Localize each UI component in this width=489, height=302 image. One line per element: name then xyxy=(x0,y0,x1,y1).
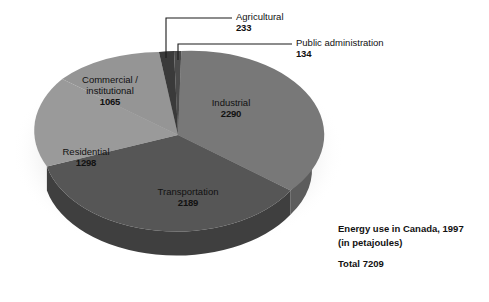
chart-canvas: Industrial 2290 Transportation 2189 Resi… xyxy=(0,0,489,302)
caption-title: Energy use in Canada, 1997 xyxy=(338,222,464,236)
slice-label-public-administration: Public administration 134 xyxy=(296,37,384,59)
slice-label-commercial-institutional: Commercial / institutional 1065 xyxy=(70,74,150,108)
slice-label-residential-value: 1298 xyxy=(50,157,122,168)
slice-label-transportation: Transportation 2189 xyxy=(144,186,232,208)
slice-label-residential: Residential 1298 xyxy=(50,146,122,168)
chart-caption: Energy use in Canada, 1997 (in petajoule… xyxy=(338,222,464,270)
slice-label-agricultural: Agricultural 233 xyxy=(236,11,284,33)
slice-label-agricultural-name: Agricultural xyxy=(236,11,284,22)
slice-label-industrial: Industrial 2290 xyxy=(196,97,266,119)
slice-label-public-administration-value: 134 xyxy=(296,48,384,59)
slice-label-commercial-value: 1065 xyxy=(70,96,150,107)
caption-total: Total 7209 xyxy=(338,257,464,271)
slice-label-agricultural-value: 233 xyxy=(236,22,284,33)
caption-units: (in petajoules) xyxy=(338,236,464,250)
slice-label-commercial-name-line1: Commercial / xyxy=(70,74,150,85)
slice-label-residential-name: Residential xyxy=(50,146,122,157)
slice-label-public-administration-name: Public administration xyxy=(296,37,384,48)
slice-label-industrial-value: 2290 xyxy=(196,108,266,119)
slice-label-transportation-value: 2189 xyxy=(144,197,232,208)
slice-label-transportation-name: Transportation xyxy=(144,186,232,197)
slice-label-commercial-name-line2: institutional xyxy=(70,85,150,96)
slice-label-industrial-name: Industrial xyxy=(196,97,266,108)
